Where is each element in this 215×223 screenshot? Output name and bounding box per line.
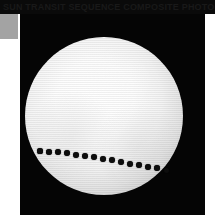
- transit-dot: [154, 165, 160, 171]
- photo-background: [20, 14, 205, 215]
- photo-frame: [20, 14, 205, 215]
- transit-dot: [164, 168, 169, 173]
- transit-dot: [100, 156, 106, 162]
- transit-dot: [118, 159, 124, 165]
- transit-dot: [82, 153, 88, 159]
- transit-dot: [109, 157, 115, 163]
- screenshot-root: SUN TRANSIT SEQUENCE COMPOSITE PHOTOGRAP…: [0, 0, 215, 223]
- transit-dot: [91, 154, 97, 160]
- transit-dot: [136, 162, 142, 168]
- gray-reference-patch: [0, 14, 18, 39]
- solar-disk: [25, 37, 183, 195]
- caption-banner: SUN TRANSIT SEQUENCE COMPOSITE PHOTOGRAP…: [0, 0, 215, 14]
- transit-dot: [145, 164, 151, 170]
- transit-dot: [73, 152, 79, 158]
- transit-dot: [46, 149, 52, 155]
- transit-dot: [127, 161, 133, 167]
- transit-dot: [64, 150, 70, 156]
- transit-dot: [55, 149, 61, 155]
- transit-dot: [37, 148, 42, 153]
- caption-text: SUN TRANSIT SEQUENCE COMPOSITE PHOTOGRAP…: [3, 1, 215, 13]
